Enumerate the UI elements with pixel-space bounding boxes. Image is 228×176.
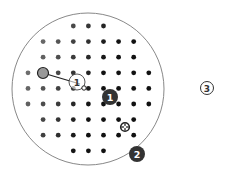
grid-dot[interactable] bbox=[26, 86, 31, 91]
marker-3-label: 3 bbox=[204, 84, 210, 94]
grid-dot[interactable] bbox=[131, 102, 136, 107]
grid-dot[interactable] bbox=[101, 133, 106, 138]
drop-point-icon bbox=[82, 86, 86, 90]
grid-dot[interactable] bbox=[116, 86, 121, 91]
grid-dot[interactable] bbox=[131, 86, 136, 91]
grid-dot[interactable] bbox=[41, 102, 46, 107]
grid-dot[interactable] bbox=[56, 117, 61, 122]
grid-dot[interactable] bbox=[101, 39, 106, 44]
grid-dot[interactable] bbox=[86, 148, 91, 153]
grid-dot[interactable] bbox=[86, 102, 91, 107]
marker-1[interactable]: 1 bbox=[102, 89, 118, 105]
crosshair-icon bbox=[121, 123, 130, 132]
grid-dot[interactable] bbox=[146, 86, 151, 91]
grid-dot[interactable] bbox=[131, 39, 136, 44]
grid-dot[interactable] bbox=[41, 86, 46, 91]
grid-dot[interactable] bbox=[116, 102, 121, 107]
grid-dot[interactable] bbox=[101, 70, 106, 75]
drag-target-indicator: 1 bbox=[69, 74, 86, 90]
grid-dot[interactable] bbox=[131, 70, 136, 75]
grid-dot[interactable] bbox=[116, 133, 121, 138]
grid-dot[interactable] bbox=[56, 86, 61, 91]
grid-dot[interactable] bbox=[41, 117, 46, 122]
grid-dot[interactable] bbox=[41, 55, 46, 60]
grid-dot[interactable] bbox=[86, 39, 91, 44]
grid-dot[interactable] bbox=[41, 39, 46, 44]
dot-grid bbox=[26, 24, 152, 154]
grid-dot[interactable] bbox=[56, 55, 61, 60]
grid-dot[interactable] bbox=[56, 133, 61, 138]
grid-dot[interactable] bbox=[86, 55, 91, 60]
drag-target-label: 1 bbox=[74, 78, 80, 88]
marker-2-label: 2 bbox=[134, 149, 141, 160]
grid-dot[interactable] bbox=[116, 70, 121, 75]
grid-dot[interactable] bbox=[86, 86, 91, 91]
grid-dot[interactable] bbox=[71, 148, 76, 153]
grid-dot[interactable] bbox=[116, 39, 121, 44]
grid-dot[interactable] bbox=[26, 102, 31, 107]
grid-dot[interactable] bbox=[131, 117, 136, 122]
grid-dot[interactable] bbox=[56, 70, 61, 75]
marker-1-label: 1 bbox=[107, 92, 114, 103]
grid-dot[interactable] bbox=[71, 39, 76, 44]
grid-dot[interactable] bbox=[131, 133, 136, 138]
grid-dot[interactable] bbox=[146, 102, 151, 107]
grid-dot[interactable] bbox=[116, 117, 121, 122]
grid-dot[interactable] bbox=[71, 55, 76, 60]
grid-dot[interactable] bbox=[116, 55, 121, 60]
grid-dot[interactable] bbox=[86, 70, 91, 75]
grid-dot[interactable] bbox=[146, 70, 151, 75]
marker-2[interactable]: 2 bbox=[129, 146, 145, 162]
dot-grid-diagram: 1 1 2 3 bbox=[0, 0, 228, 176]
grid-dot[interactable] bbox=[26, 70, 31, 75]
grid-dot[interactable] bbox=[86, 117, 91, 122]
grid-dot[interactable] bbox=[71, 133, 76, 138]
grid-dot[interactable] bbox=[101, 24, 106, 29]
grid-dot[interactable] bbox=[41, 133, 46, 138]
grid-dot[interactable] bbox=[71, 117, 76, 122]
grid-dot[interactable] bbox=[101, 117, 106, 122]
grid-dot[interactable] bbox=[86, 24, 91, 29]
grid-dot[interactable] bbox=[71, 102, 76, 107]
grid-dot[interactable] bbox=[71, 24, 76, 29]
grid-dot[interactable] bbox=[86, 133, 91, 138]
grid-dot[interactable] bbox=[101, 86, 106, 91]
selected-dot[interactable] bbox=[38, 68, 49, 79]
grid-dot[interactable] bbox=[56, 102, 61, 107]
grid-dot[interactable] bbox=[56, 39, 61, 44]
marker-3[interactable]: 3 bbox=[201, 82, 214, 95]
grid-dot[interactable] bbox=[101, 55, 106, 60]
grid-dot[interactable] bbox=[101, 148, 106, 153]
grid-dot[interactable] bbox=[131, 55, 136, 60]
